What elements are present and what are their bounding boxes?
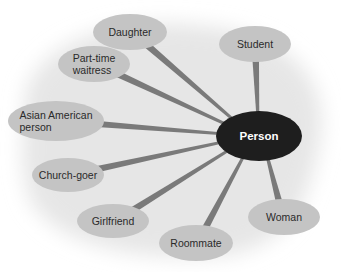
node-label: Woman: [266, 211, 302, 223]
node-label: Church-goer: [39, 169, 97, 181]
node-label: Person: [240, 130, 279, 142]
node-label: Asian American person: [20, 109, 93, 133]
node-woman: Woman: [248, 199, 320, 235]
node-student: Student: [219, 26, 291, 62]
node-label: Student: [237, 38, 273, 50]
node-asian-american-person: Asian American person: [8, 101, 104, 141]
concept-diagram: DaughterStudentPart-time waitressAsian A…: [0, 0, 341, 272]
node-label: Daughter: [108, 26, 151, 38]
node-label: Roommate: [170, 237, 221, 249]
node-church-goer: Church-goer: [32, 158, 104, 192]
node-label: Girlfriend: [92, 215, 135, 227]
node-label: Part-time waitress: [73, 52, 116, 76]
node-daughter: Daughter: [93, 14, 167, 50]
node-part-time-waitress: Part-time waitress: [58, 46, 130, 82]
node-roommate: Roommate: [159, 225, 233, 261]
node-person: Person: [216, 111, 302, 161]
node-girlfriend: Girlfriend: [77, 204, 149, 238]
